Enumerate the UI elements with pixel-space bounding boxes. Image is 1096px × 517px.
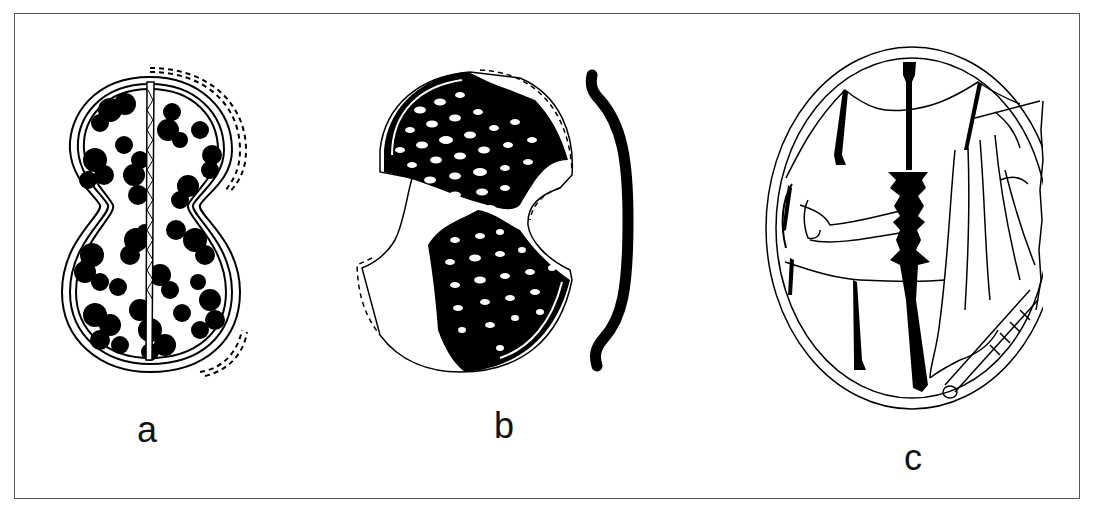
- panel-a-central-spine: [146, 82, 154, 360]
- panel-b-drawing: [357, 70, 572, 372]
- figure-artwork: [0, 0, 1096, 517]
- panel-label-b: b: [494, 408, 514, 444]
- panel-label-a: a: [137, 412, 157, 448]
- panel-label-c: c: [904, 440, 922, 476]
- panel-b-section-profile: [591, 75, 628, 366]
